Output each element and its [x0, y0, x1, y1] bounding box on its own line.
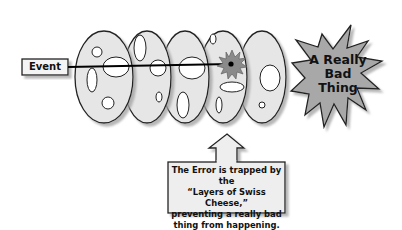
bad-outcome-label: A Really Bad Thing: [298, 53, 378, 95]
bad-outcome-line: A Really: [298, 53, 378, 67]
hole: [87, 68, 97, 92]
hole: [210, 34, 216, 44]
callout-line: “Layers of Swiss Cheese,”: [168, 187, 285, 209]
hole: [220, 82, 244, 92]
callout-text: The Error is trapped by the “Layers of S…: [168, 165, 285, 230]
hole: [102, 97, 114, 109]
hole: [179, 57, 205, 79]
hole: [150, 60, 166, 76]
hole: [216, 97, 222, 113]
callout-line: preventing a really bad: [168, 209, 285, 220]
hole: [156, 92, 162, 102]
callout-line: thing from happening.: [168, 220, 285, 230]
hole: [259, 102, 265, 108]
hole: [92, 47, 102, 57]
event-label: Event: [22, 59, 68, 75]
bad-outcome-line: Bad: [298, 67, 378, 81]
hole: [177, 92, 189, 118]
hole: [260, 65, 280, 91]
callout-arrow: [209, 134, 244, 163]
bad-outcome-line: Thing: [298, 81, 378, 95]
callout-line: The Error is trapped by the: [168, 165, 285, 187]
cheese-layer-1: [75, 31, 133, 123]
hole: [134, 35, 146, 61]
